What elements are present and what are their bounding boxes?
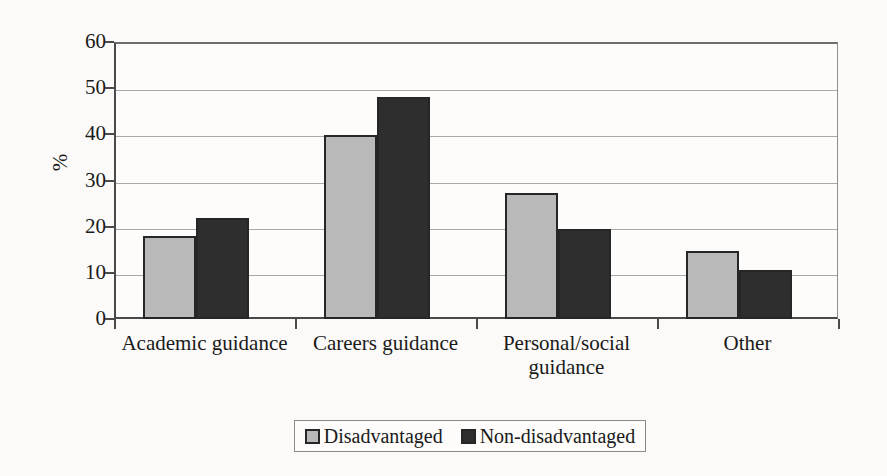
bar [686, 251, 739, 319]
legend-swatch-dark [461, 429, 476, 444]
legend-item: Disadvantaged [305, 426, 443, 446]
x-axis-category-label-line: Personal/social [476, 331, 657, 355]
x-axis-tick-mark [476, 319, 478, 329]
bars-layer [114, 42, 838, 319]
x-axis-category-label: Careers guidance [295, 331, 476, 355]
legend-item: Non-disadvantaged [461, 426, 636, 446]
x-axis-tick-mark [114, 319, 116, 329]
y-axis-tick-mark [105, 318, 114, 320]
bar [143, 236, 196, 319]
x-axis-category-label-line: Other [657, 331, 838, 355]
x-axis-category-label: Academic guidance [114, 331, 295, 355]
y-axis-tick-mark [105, 133, 114, 135]
bar [558, 229, 611, 319]
y-axis-tick-mark [105, 180, 114, 182]
x-axis-category-label-line: Careers guidance [295, 331, 476, 355]
legend-swatch-light [305, 429, 320, 444]
x-axis-tick-mark [295, 319, 297, 329]
y-axis-tick-label: 30 [60, 170, 106, 191]
bar [739, 270, 792, 319]
y-axis-tick-labels: 6050403020100 [54, 42, 106, 319]
y-axis-tick-mark [105, 226, 114, 228]
y-axis-tick-label: 40 [60, 123, 106, 144]
bar [377, 97, 430, 319]
chart-legend: DisadvantagedNon-disadvantaged [294, 420, 646, 452]
x-axis-category-label-line: Academic guidance [114, 331, 295, 355]
x-axis-category-label-line: guidance [476, 355, 657, 379]
y-axis-tick-mark [105, 87, 114, 89]
y-axis-tick-mark [105, 41, 114, 43]
bar [324, 135, 377, 319]
legend-item-label: Disadvantaged [324, 426, 443, 446]
x-axis-category-label: Other [657, 331, 838, 355]
bar-chart-figure: % 6050403020100 Academic guidanceCareers… [0, 0, 887, 476]
y-axis-tick-label: 50 [60, 77, 106, 98]
y-axis-tick-label: 60 [60, 31, 106, 52]
x-axis-category-label: Personal/socialguidance [476, 331, 657, 379]
y-axis-tick-label: 0 [60, 308, 106, 329]
legend-item-label: Non-disadvantaged [480, 426, 636, 446]
y-axis-tick-label: 20 [60, 216, 106, 237]
bar [196, 218, 249, 319]
bar [505, 193, 558, 319]
y-axis-tick-label: 10 [60, 262, 106, 283]
x-axis-tick-mark [838, 319, 840, 329]
x-axis-tick-mark [657, 319, 659, 329]
y-axis-tick-mark [105, 272, 114, 274]
